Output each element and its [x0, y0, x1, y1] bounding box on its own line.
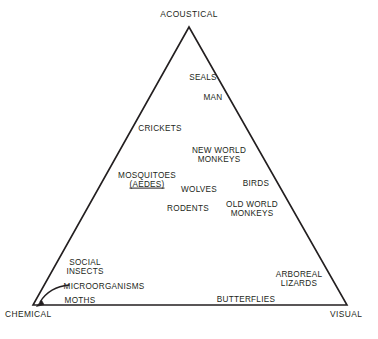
item-label-moths: MOTHS [65, 296, 96, 306]
corner-label-acoustical: ACOUSTICAL [160, 9, 218, 19]
item-label-mosquitoes-aedes: MOSQUITOES (AEDES) [118, 171, 176, 190]
item-label-arboreal-lizards-line1: ARBOREAL [276, 270, 323, 279]
item-label-social-insects-line2: INSECTS [66, 267, 103, 276]
item-label-arboreal-lizards-line2: LIZARDS [276, 279, 323, 288]
item-label-social-insects: SOCIAL INSECTS [66, 258, 103, 277]
item-label-birds: BIRDS [243, 179, 269, 189]
item-label-aedes-genus: (AEDES) [118, 180, 176, 189]
item-label-rodents: RODENTS [167, 204, 209, 214]
item-label-mosquitoes-line1: MOSQUITOES [118, 171, 176, 180]
label-layer: ACOUSTICAL CHEMICAL VISUAL SEALS MAN CRI… [0, 0, 378, 339]
corner-label-visual: VISUAL [330, 309, 362, 319]
item-label-microorganisms: MICROORGANISMS [64, 282, 145, 292]
item-label-butterflies: BUTTERFLIES [217, 295, 275, 305]
item-label-new-world-monkeys-line2: MONKEYS [192, 155, 246, 164]
item-label-new-world-monkeys: NEW WORLD MONKEYS [192, 146, 246, 165]
item-label-social-insects-line1: SOCIAL [66, 258, 103, 267]
item-label-seals: SEALS [189, 73, 217, 83]
item-label-wolves: WOLVES [181, 185, 217, 195]
item-label-old-world-monkeys: OLD WORLD MONKEYS [226, 200, 278, 219]
item-label-crickets: CRICKETS [138, 124, 181, 134]
item-label-old-world-monkeys-line2: MONKEYS [226, 209, 278, 218]
item-label-old-world-monkeys-line1: OLD WORLD [226, 200, 278, 209]
item-label-arboreal-lizards: ARBOREAL LIZARDS [276, 270, 323, 289]
corner-label-chemical: CHEMICAL [5, 309, 51, 319]
item-label-new-world-monkeys-line1: NEW WORLD [192, 146, 246, 155]
item-label-man: MAN [204, 93, 223, 103]
